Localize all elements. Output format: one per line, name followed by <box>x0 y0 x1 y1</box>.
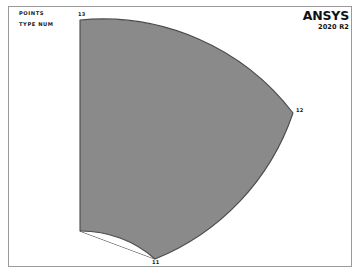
ansys-graphics-window: POINTS TYPE NUM ANSYS 2020 R2 13 12 11 <box>0 0 362 280</box>
ansys-brand-block: ANSYS 2020 R2 <box>303 10 349 30</box>
legend-label-points: POINTS <box>19 11 54 16</box>
plot-frame-border <box>8 6 352 267</box>
plot-legend: POINTS TYPE NUM <box>19 11 54 27</box>
keypoint-label-11: 11 <box>152 259 159 265</box>
keypoint-label-13: 13 <box>78 11 85 17</box>
ansys-version-text: 2020 R2 <box>303 24 349 31</box>
ansys-logo-text: ANSYS <box>303 10 349 23</box>
keypoint-label-12: 12 <box>296 107 303 113</box>
legend-label-type-num: TYPE NUM <box>19 22 54 27</box>
